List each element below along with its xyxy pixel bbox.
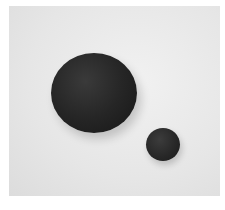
photo: two dark spherical balls on a light gray… — [9, 6, 220, 196]
small-ball — [146, 128, 180, 161]
large-ball — [51, 53, 137, 133]
